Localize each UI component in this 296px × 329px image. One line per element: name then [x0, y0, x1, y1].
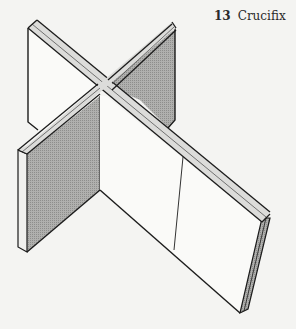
- figure-caption: 13Crucifix: [214, 9, 286, 23]
- figure-number: 13: [214, 9, 231, 23]
- figure-title: Crucifix: [238, 9, 286, 23]
- crucifix-joint-diagram: [0, 0, 296, 329]
